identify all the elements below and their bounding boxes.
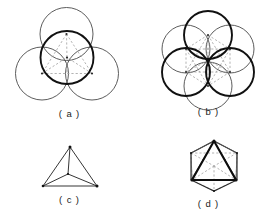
figure-container: ( a ) ( b ) ( c ) ( d ) [0, 0, 278, 224]
panel-caption-a: ( a ) [0, 108, 139, 119]
panel-a-group [16, 8, 119, 101]
panel-caption-b: ( b ) [139, 106, 278, 117]
panel-d-group [190, 139, 238, 192]
panel-c-edges [43, 147, 97, 186]
panel-c-group [42, 146, 99, 188]
panel-b-group [162, 11, 254, 110]
panel-d-hidden-edges [191, 153, 237, 191]
panel-caption-d: ( d ) [139, 198, 278, 209]
panel-d-light-edges [191, 141, 237, 180]
panel-caption-c: ( c ) [0, 194, 139, 205]
panel-d-front-triangle [192, 141, 236, 180]
